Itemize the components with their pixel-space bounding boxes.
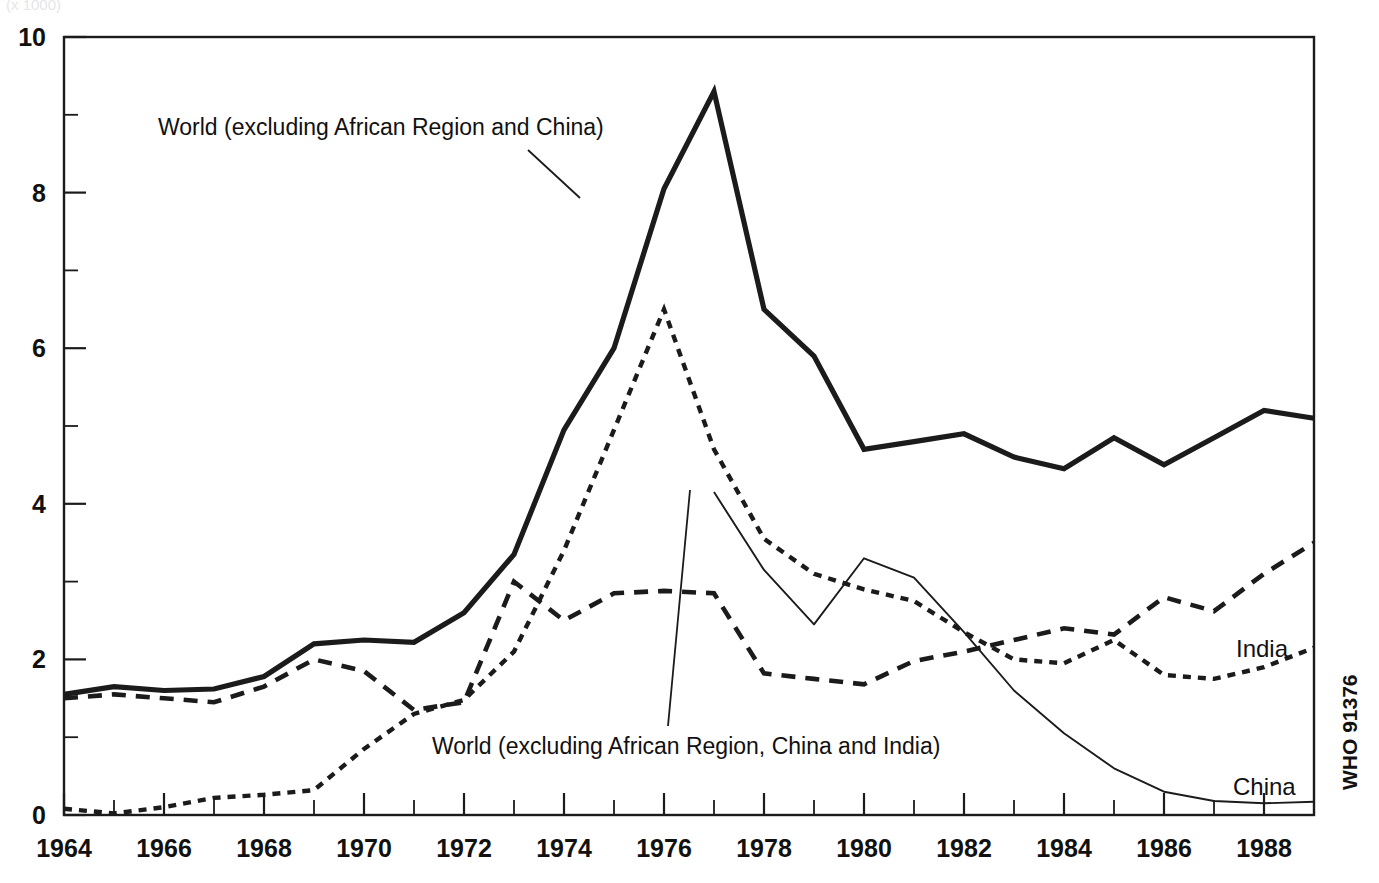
x-tick-label-1978: 1978 [736,834,792,862]
x-axis-labels: 1964196619681970197219741976197819801982… [36,834,1292,862]
x-tick-label-1968: 1968 [236,834,292,862]
y-tick-label-0: 0 [32,801,46,829]
x-tick-label-1974: 1974 [536,834,592,862]
figure-container: (x 1000) 0246810 19641966196819701972197… [0,0,1379,883]
y-tick-label-6: 6 [32,334,46,362]
y-tick-label-4: 4 [32,490,46,518]
x-tick-label-1970: 1970 [336,834,392,862]
x-axis-ticks [64,793,1314,815]
series-line-world-excluding-african-region-china-and-india [64,543,1314,710]
x-tick-label-1982: 1982 [936,834,992,862]
y-tick-label-10: 10 [18,23,46,51]
x-tick-label-1988: 1988 [1236,834,1292,862]
leader-line-world-ci [668,490,690,726]
annotation-world: World (excluding African Region and Chin… [158,114,604,140]
series-layer [64,92,1314,814]
x-tick-label-1984: 1984 [1036,834,1092,862]
x-tick-label-1964: 1964 [36,834,92,862]
credit-label: WHO 91376 [1338,674,1361,790]
series-label-china: China [1233,773,1296,800]
x-tick-label-1986: 1986 [1136,834,1192,862]
top-note: (x 1000) [6,0,61,13]
y-axis-labels: 0246810 [18,23,46,829]
leader-line-world [528,150,580,198]
line-chart: (x 1000) 0246810 19641966196819701972197… [0,0,1379,883]
series-label-india: India [1236,635,1289,662]
x-tick-label-1966: 1966 [136,834,192,862]
series-line-world-excluding-african-region-and-china [64,92,1314,695]
y-tick-label-2: 2 [32,645,46,673]
x-tick-label-1972: 1972 [436,834,492,862]
y-tick-label-8: 8 [32,179,46,207]
annotation-world-china-india: World (excluding African Region, China a… [432,733,940,759]
plot-frame [64,37,1314,815]
x-tick-label-1976: 1976 [636,834,692,862]
x-tick-label-1980: 1980 [836,834,892,862]
